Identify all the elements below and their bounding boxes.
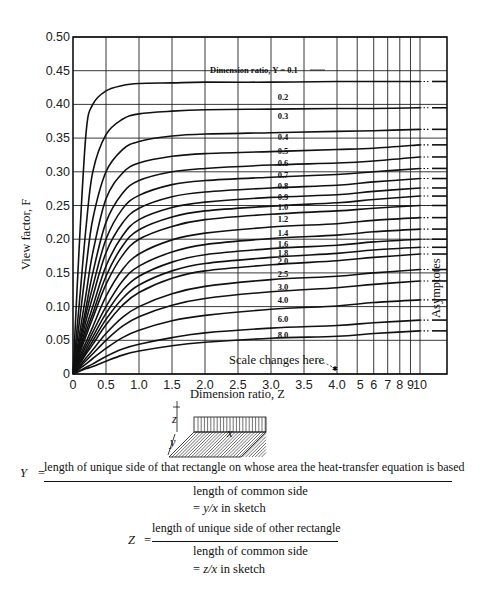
y-denominator: length of common side: [193, 484, 308, 499]
y-variable: Y: [20, 466, 27, 481]
curve-label: 0.3: [278, 111, 289, 121]
grid-lines: [73, 37, 447, 374]
curve-label: 0.8: [278, 181, 289, 191]
z-denominator: length of common side: [193, 544, 308, 559]
y-axis-label: View factor, F: [19, 199, 33, 270]
y-tick-label: 0.40: [46, 97, 70, 111]
view-factor-chart: 00.050.100.150.200.250.300.350.400.450.5…: [0, 0, 480, 460]
curve-label: 1.2: [278, 214, 289, 224]
x-tick-label: 7: [384, 378, 391, 392]
y-tick-label: 0.05: [46, 333, 70, 347]
curve-series: [73, 81, 420, 374]
geometry-sketch: z x y: [168, 401, 266, 457]
curve-label: 3.0: [278, 282, 289, 292]
sketch-label-z: z: [171, 412, 177, 426]
curve-label: 8.0: [278, 330, 289, 340]
x-tick-label: 6: [370, 378, 377, 392]
curve-label: 4.0: [278, 295, 289, 305]
curve-label: 2.5: [278, 269, 289, 279]
z-fraction-bar: [152, 541, 338, 542]
z-variable: Z: [128, 533, 135, 548]
curve-label: 2.0: [278, 256, 289, 266]
y-tick-label: 0.45: [46, 64, 70, 78]
x-axis-label: Dimension ratio, Z: [190, 387, 285, 401]
x-tick-label: 10: [413, 378, 427, 392]
sketch-label-x: x: [226, 426, 233, 440]
y-numerator: length of unique side of that rectangle …: [44, 460, 452, 475]
x-tick-label: 3.5: [295, 378, 312, 392]
scale-change-arrowhead-icon: ✱: [332, 365, 338, 373]
x-tick-label: 0.5: [97, 378, 114, 392]
curve-label: 6.0: [278, 314, 289, 324]
asymptotes-label: Asymptotes: [429, 258, 443, 318]
x-tick-label: 5: [357, 378, 364, 392]
x-tick-label: 8: [396, 378, 403, 392]
x-tick-label: 0: [70, 378, 77, 392]
z-equals: =: [144, 533, 151, 548]
y-tick-label: 0.15: [46, 266, 70, 280]
curve-label: 0.7: [278, 170, 289, 180]
y-tick-label: 0.25: [46, 199, 70, 213]
curve-label: 1.4: [278, 228, 289, 238]
x-tick-label: 1.0: [130, 378, 147, 392]
y-axis-ticks: 00.050.100.150.200.250.300.350.400.450.5…: [46, 30, 70, 381]
scale-change-annotation: Scale changes here: [229, 353, 325, 367]
z-sketch-relation: = z/x in sketch: [193, 562, 265, 577]
x-tick-label: 4.0: [328, 378, 345, 392]
z-numerator: length of unique side of other rectangle: [152, 521, 338, 536]
curve-label: 0.2: [278, 92, 289, 102]
sketch-label-y: y: [168, 435, 176, 449]
y-tick-label: 0.35: [46, 131, 70, 145]
curve-labels: 0.20.30.40.50.60.70.80.91.01.21.41.61.82…: [278, 92, 289, 340]
y-sketch-relation: = y/x in sketch: [193, 501, 266, 516]
curve-label: 0.4: [278, 132, 289, 142]
curve-label: 1.0: [278, 202, 289, 212]
legend-title: Dimension ratio, Y = 0.1: [210, 65, 298, 75]
y-tick-label: 0.20: [46, 232, 70, 246]
y-tick-label: 0.50: [46, 30, 70, 44]
x-tick-label: 1.5: [163, 378, 180, 392]
curve-label: 0.9: [278, 192, 289, 202]
y-tick-label: 0.10: [46, 300, 70, 314]
curve-label: 0.6: [278, 158, 289, 168]
y-fraction-bar: [44, 481, 452, 482]
y-tick-label: 0.30: [46, 165, 70, 179]
curve-label: 0.5: [278, 146, 289, 156]
